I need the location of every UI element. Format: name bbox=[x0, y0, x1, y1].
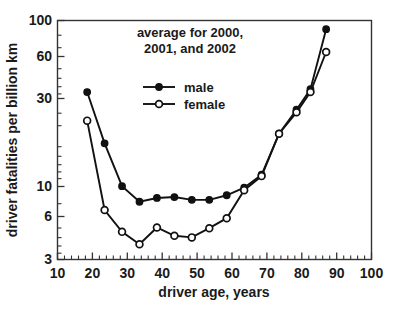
data-point-female-23.5 bbox=[101, 207, 108, 214]
data-point-male-48.5 bbox=[189, 197, 195, 203]
data-point-male-33.5 bbox=[136, 199, 142, 205]
x-tick-label-70: 70 bbox=[259, 265, 275, 281]
data-point-female-87 bbox=[323, 49, 330, 56]
x-tick-label-60: 60 bbox=[224, 265, 240, 281]
data-point-male-28.5 bbox=[119, 183, 125, 189]
y-tick-label-100: 100 bbox=[29, 12, 53, 28]
data-point-female-73.5 bbox=[276, 130, 283, 137]
data-point-male-23.5 bbox=[101, 140, 107, 146]
legend-marker-female-open-circle bbox=[156, 101, 163, 108]
y-axis-title: driver fatalities per billion km bbox=[4, 43, 20, 238]
x-tick-label-90: 90 bbox=[329, 265, 345, 281]
data-point-male-38.5 bbox=[154, 195, 160, 201]
data-point-male-58.5 bbox=[224, 192, 230, 198]
data-point-male-18.5 bbox=[84, 89, 90, 95]
chart-title-line-1: average for 2000, bbox=[137, 25, 243, 40]
data-point-female-33.5 bbox=[136, 241, 143, 248]
x-tick-label-50: 50 bbox=[189, 265, 205, 281]
data-point-female-48.5 bbox=[188, 234, 195, 241]
chart-figure: 100 60 30 10 6 3 bbox=[0, 0, 397, 311]
data-point-female-18.5 bbox=[84, 117, 91, 124]
data-point-female-78.5 bbox=[293, 109, 300, 116]
data-point-male-53.5 bbox=[206, 197, 212, 203]
data-point-female-63.5 bbox=[241, 187, 248, 194]
data-point-female-53.5 bbox=[206, 225, 213, 232]
data-point-male-87 bbox=[323, 26, 329, 32]
data-point-male-43.5 bbox=[171, 194, 177, 200]
y-tick-label-10: 10 bbox=[36, 178, 52, 194]
driver-fatalities-line-chart: 100 60 30 10 6 3 bbox=[0, 0, 397, 311]
x-tick-label-30: 30 bbox=[120, 265, 136, 281]
y-tick-label-6: 6 bbox=[44, 208, 52, 224]
y-tick-label-30: 30 bbox=[36, 90, 52, 106]
x-tick-label-100: 100 bbox=[360, 265, 384, 281]
data-point-female-82.5 bbox=[307, 89, 314, 96]
x-tick-label-20: 20 bbox=[85, 265, 101, 281]
x-tick-label-40: 40 bbox=[154, 265, 170, 281]
chart-title-line-2: 2001, and 2002 bbox=[144, 41, 236, 56]
legend-label-male: male bbox=[184, 80, 214, 95]
data-point-female-43.5 bbox=[171, 232, 178, 239]
x-tick-label-10: 10 bbox=[50, 265, 66, 281]
data-point-female-68.5 bbox=[258, 173, 265, 180]
y-tick-label-60: 60 bbox=[36, 48, 52, 64]
legend-marker-male-filled-circle bbox=[156, 84, 162, 90]
x-tick-label-80: 80 bbox=[294, 265, 310, 281]
x-axis-title: driver age, years bbox=[158, 284, 270, 300]
data-point-female-38.5 bbox=[154, 224, 161, 231]
data-point-female-58.5 bbox=[223, 215, 230, 222]
legend-label-female: female bbox=[184, 97, 225, 112]
data-point-female-28.5 bbox=[119, 228, 126, 235]
